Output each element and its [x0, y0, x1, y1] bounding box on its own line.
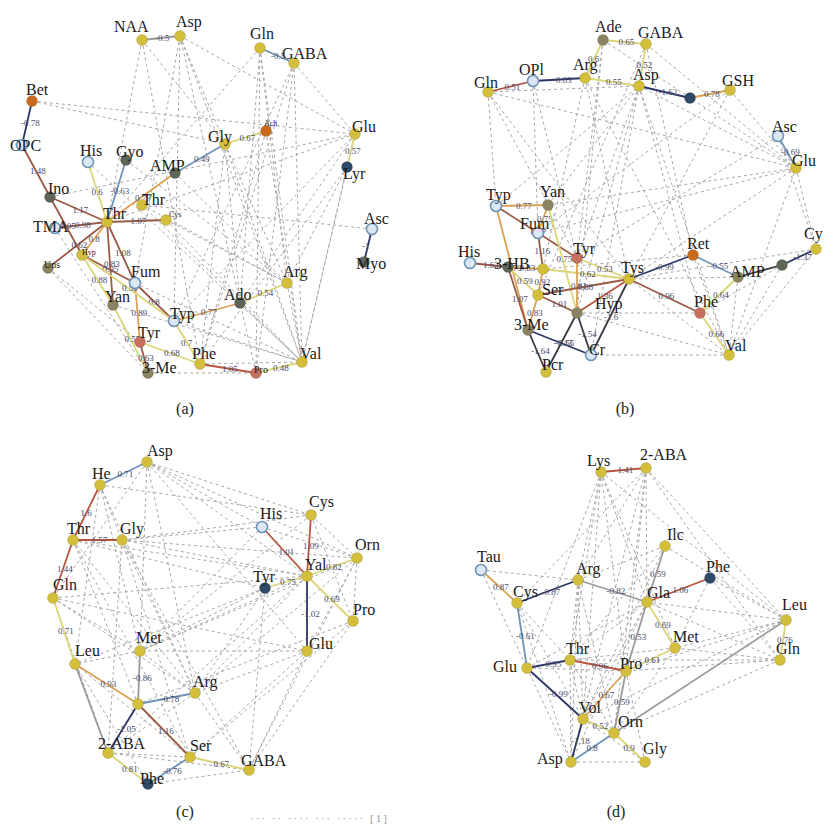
node-label: Asc: [364, 210, 389, 227]
node-3hb: 3-HB: [494, 255, 530, 273]
node-arg_a: Arg: [282, 263, 308, 289]
dashed-edge: [570, 660, 571, 762]
node-label: Gln: [250, 25, 274, 42]
edge-weight-label: 0.77: [516, 201, 532, 211]
node-val_a: Val: [297, 345, 322, 368]
node-circle-icon: [566, 757, 577, 768]
node-label: Ret: [687, 235, 710, 252]
node-label: GABA: [282, 45, 328, 62]
dashed-edge: [225, 144, 240, 303]
edge-weight-label: 0.67: [599, 690, 615, 700]
node-label: Val: [300, 345, 322, 362]
dashed-edge: [583, 472, 601, 719]
node-gly: Gly: [208, 128, 232, 150]
node-circle-icon: [781, 615, 792, 626]
edge-weight-label: 1.05: [222, 364, 238, 374]
node-label: AMP: [150, 157, 185, 174]
node-label: Hyp: [82, 248, 96, 257]
node-fum: Fum: [130, 263, 161, 289]
nodes: AdeGABAGlnOPlArgAspGSHAscGluTypYanFumTyr…: [458, 18, 823, 378]
node-gaba: GABA: [282, 45, 328, 69]
node-label: Asp: [147, 442, 173, 460]
node-label: Glu: [493, 658, 517, 675]
edge-weight-label: -1.64: [531, 346, 550, 356]
node-phe_c: Phe: [140, 770, 164, 790]
node-label: Yan: [105, 288, 130, 305]
node-label: Pro: [353, 601, 375, 618]
edge-weight-label: 0.57: [345, 146, 361, 156]
edge-weight-label: 1.17: [73, 205, 89, 215]
edge-weight-label: 1.07: [131, 216, 147, 226]
node-naa: NAA: [114, 18, 149, 46]
node-label: Ado: [224, 286, 252, 303]
node-cys_c: Cys: [306, 493, 334, 521]
node-orn_d: Orn: [609, 713, 643, 739]
dashed-edge: [710, 578, 786, 620]
node-gln_c: Gln: [48, 576, 78, 604]
node-label: Thr: [103, 205, 127, 222]
node-label: Asp: [176, 13, 202, 31]
dashed-edge: [140, 462, 147, 651]
node-label: Cy: [804, 225, 823, 243]
node-circle-icon: [777, 260, 788, 271]
dashed-edge: [603, 40, 796, 168]
node-label: Tau: [477, 548, 501, 565]
node-label: Ser: [190, 737, 212, 754]
dashed-edge: [140, 576, 307, 651]
edge-weight-label: 1.41: [618, 465, 634, 475]
dashed-edge: [527, 668, 571, 762]
edge-weight-label: 0.88: [92, 275, 108, 285]
node-phe_b: Phe: [694, 293, 718, 319]
node-gsh: GSH: [722, 72, 754, 96]
node-label: Cys: [169, 210, 181, 219]
node-label: 3-Me: [514, 316, 549, 333]
node-label: Glu: [309, 635, 333, 652]
edge-weight-label: 0.52: [593, 721, 609, 731]
edge-weight-label: 0.83: [104, 259, 120, 269]
node-orn: Orn: [352, 536, 380, 564]
edge-weight-label: 0.51: [505, 82, 521, 92]
caption-c: (c): [155, 803, 215, 821]
caption-a: (a): [155, 400, 215, 418]
edge-weight-label: -0.86: [133, 673, 152, 683]
node-asp: Asp: [175, 13, 202, 42]
node-label: Asc: [772, 118, 797, 135]
node-label: Gln: [776, 640, 800, 657]
node-ado: Ado: [224, 286, 252, 309]
node-his: His: [80, 142, 102, 168]
node-label: His: [80, 142, 102, 159]
node-label: Typ: [170, 305, 195, 323]
node-asp_c: Asp: [142, 442, 173, 468]
node-myo: Myo: [356, 255, 386, 273]
node-label: Fum: [520, 215, 550, 232]
node-label: OPC: [10, 137, 41, 154]
node-label: Gln: [474, 74, 498, 91]
dashed-edge: [147, 462, 307, 576]
edge-weight-label: 0.96: [659, 291, 675, 301]
edge-weight-label: 0.7: [181, 338, 193, 348]
node-ilc: Ilc: [660, 526, 684, 552]
edge-weight-label: 1.06: [673, 585, 689, 595]
node-circle-icon: [685, 93, 696, 104]
node-yal: Yal: [302, 556, 328, 582]
node-circle-icon: [175, 31, 186, 42]
node-cr: Cr: [586, 341, 606, 361]
edge-weight-label: 0.53: [597, 264, 613, 274]
node-label: Glu: [352, 118, 376, 135]
node-ret: Ret: [687, 235, 710, 261]
edge-weight-label: 0.78: [704, 89, 720, 99]
node-circle-icon: [137, 35, 148, 46]
node-pro_c: Pro: [348, 601, 376, 627]
edge-weight-label: -0.55: [710, 261, 729, 271]
dashed-edge: [147, 462, 262, 527]
node-cy: Cy: [804, 225, 823, 255]
edge-weight-label: 1.08: [115, 248, 131, 258]
node-label: Asp: [537, 750, 563, 768]
edge-weight-label: -0.82: [607, 586, 626, 596]
node-circle-icon: [135, 646, 146, 657]
node-label: Pro: [620, 655, 642, 672]
node-phe_d: Phe: [705, 558, 731, 584]
dashed-edge: [147, 462, 357, 558]
node-label: Pro: [254, 364, 268, 375]
node-gln_d: Gln: [775, 640, 801, 666]
